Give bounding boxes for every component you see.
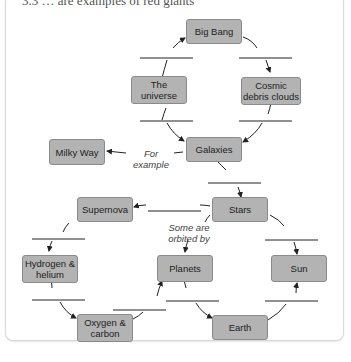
node-cosmic-debris-clouds: Cosmic debris clouds (241, 77, 301, 105)
node-sun: Sun (271, 255, 327, 282)
node-supernova: Supernova (77, 197, 133, 222)
label-for-example: For example (125, 148, 177, 170)
node-oxygen-carbon: Oxygen & carbon (77, 314, 133, 342)
node-the-universe: The universe (131, 76, 187, 104)
node-hydrogen-helium: Hydrogen & helium (22, 255, 78, 283)
node-galaxies: Galaxies (186, 137, 242, 162)
node-stars: Stars (212, 197, 268, 222)
connector-lines (0, 0, 351, 362)
node-big-bang: Big Bang (186, 19, 242, 44)
label-some-are-orbited-by: Some are orbited by (166, 222, 212, 244)
node-planets: Planets (157, 255, 213, 282)
node-earth: Earth (212, 315, 268, 340)
node-milky-way: Milky Way (49, 139, 105, 165)
